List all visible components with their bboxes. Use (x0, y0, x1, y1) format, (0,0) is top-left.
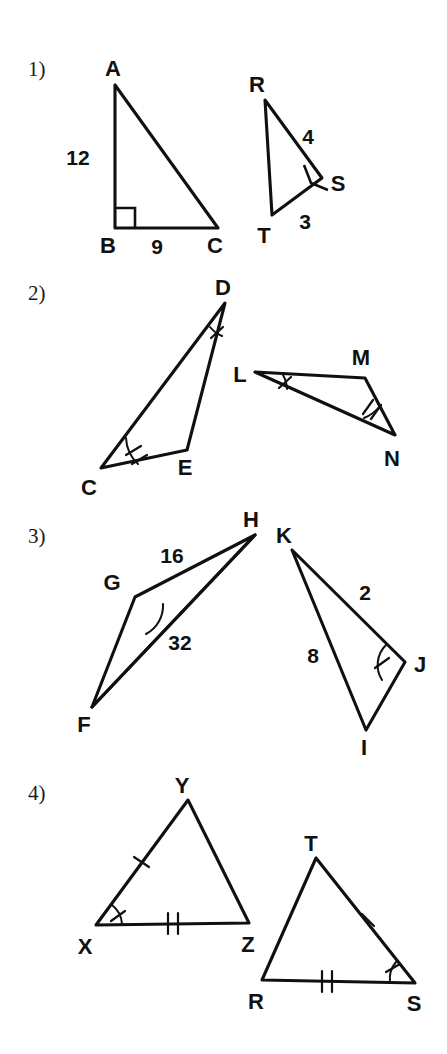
triangle-cde-outline (101, 303, 225, 468)
angle-arc-g (146, 604, 163, 634)
triangle-ijk: K J I 2 8 (276, 523, 426, 760)
triangle-cde: D C E (81, 275, 231, 500)
vertex-label-j: J (414, 652, 426, 677)
problem-4-number: 4) (28, 781, 46, 805)
vertex-label-c2: C (81, 475, 97, 500)
vertex-label-l: L (233, 362, 246, 387)
problem-4-group: 4) Y X Z (28, 773, 421, 1016)
triangle-rst-outline (265, 100, 322, 215)
right-angle-marker-b (115, 208, 135, 228)
side-label-rs: 4 (302, 125, 314, 148)
side-label-fh: 32 (168, 631, 191, 654)
worksheet-page: 1) A B C 12 9 R S T 4 3 (0, 0, 447, 1054)
side-label-st: 3 (299, 210, 311, 233)
triangle-lmn: L M N (233, 345, 400, 471)
triangle-rst: R S T 4 3 (249, 72, 345, 248)
triangle-rst-2: T R S (248, 831, 421, 1016)
side-label-kj: 2 (359, 581, 371, 604)
side-label-ki: 8 (307, 644, 319, 667)
vertex-label-i: I (361, 735, 367, 760)
angle-tick-n-2 (371, 405, 381, 419)
problem-1-number: 1) (28, 57, 46, 81)
vertex-label-m: M (352, 345, 370, 370)
vertex-label-e: E (178, 455, 193, 480)
triangle-rst-2-outline (262, 858, 415, 983)
side-label-ab: 12 (66, 146, 89, 169)
problem-2-number: 2) (28, 281, 46, 305)
problem-3-number: 3) (28, 524, 46, 548)
vertex-label-y: Y (175, 773, 190, 798)
vertex-label-k: K (276, 523, 292, 548)
vertex-label-r: R (249, 72, 265, 97)
vertex-label-t: T (257, 223, 271, 248)
triangle-xyz-outline (96, 800, 249, 925)
triangle-abc: A B C 12 9 (66, 56, 223, 258)
triangle-abc-outline (115, 85, 218, 228)
problem-3-group: 3) H G F 16 32 K J I (28, 507, 426, 760)
triangle-xyz: Y X Z (78, 773, 255, 959)
vertex-label-r2: R (248, 989, 264, 1014)
triangle-fgh: H G F 16 32 (77, 507, 259, 737)
triangle-ijk-outline (292, 550, 405, 730)
problem-2-group: 2) D C E (28, 275, 400, 500)
side-label-gh: 16 (160, 544, 183, 567)
vertex-label-s: S (331, 171, 346, 196)
vertex-label-s2: S (407, 991, 422, 1016)
problem-1-group: 1) A B C 12 9 R S T 4 3 (28, 56, 345, 258)
geometry-figures-canvas: 1) A B C 12 9 R S T 4 3 (0, 0, 447, 1054)
side-label-bc: 9 (151, 235, 163, 258)
vertex-label-t2: T (304, 831, 318, 856)
vertex-label-x: X (78, 934, 93, 959)
triangle-lmn-outline (255, 372, 395, 435)
angle-tick-n-1 (363, 400, 373, 414)
vertex-label-f: F (77, 712, 90, 737)
vertex-label-z: Z (241, 932, 254, 957)
vertex-label-h: H (243, 507, 259, 532)
vertex-label-c: C (207, 233, 223, 258)
vertex-label-n: N (384, 446, 400, 471)
vertex-label-d: D (215, 275, 231, 300)
angle-arc-s2 (390, 962, 396, 982)
vertex-label-a: A (105, 56, 121, 81)
vertex-label-b: B (100, 233, 116, 258)
vertex-label-g: G (103, 570, 120, 595)
